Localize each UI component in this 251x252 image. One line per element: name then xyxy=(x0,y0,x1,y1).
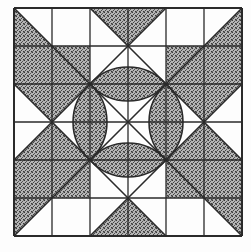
quilt-pattern-svg xyxy=(0,0,251,252)
quilt-pattern-figure xyxy=(0,0,251,252)
grid-lines xyxy=(14,8,242,236)
